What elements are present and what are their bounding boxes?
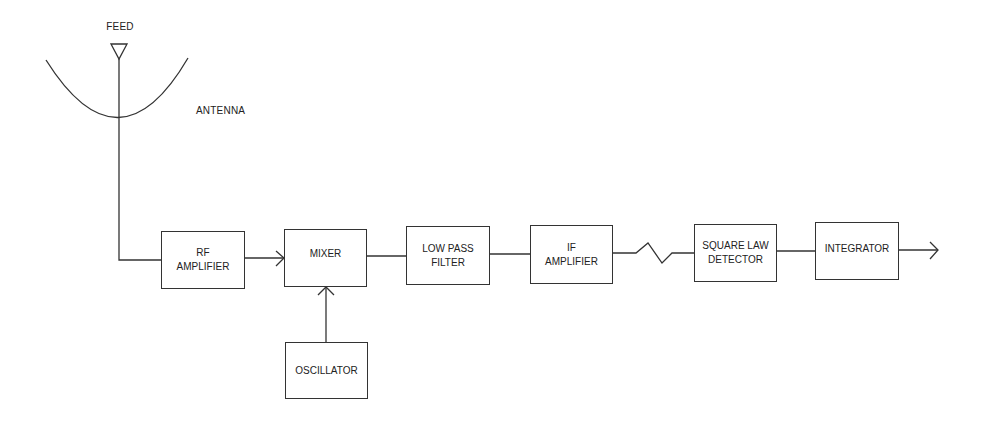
antenna-label: ANTENNA — [196, 104, 256, 118]
block-label: LOW PASS — [422, 242, 474, 256]
block-label: RF — [196, 246, 209, 260]
block-label: OSCILLATOR — [295, 364, 357, 378]
mixer-block: MIXER — [284, 229, 367, 287]
low-pass-filter-block: LOW PASS FILTER — [406, 226, 490, 285]
block-label: AMPLIFIER — [545, 255, 598, 269]
square-law-detector-block: SQUARE LAW DETECTOR — [694, 224, 777, 282]
attenuator-zigzag-icon — [612, 243, 694, 263]
antenna-dish-icon — [46, 58, 188, 118]
block-label: AMPLIFIER — [177, 260, 230, 274]
rf-amplifier-block: RF AMPLIFIER — [161, 231, 245, 289]
block-label: SQUARE LAW — [702, 239, 768, 253]
block-label: FILTER — [431, 256, 465, 270]
diagram-wires — [0, 0, 982, 430]
if-amplifier-block: IF AMPLIFIER — [530, 225, 613, 284]
feed-label: FEED — [104, 20, 136, 34]
integrator-block: INTEGRATOR — [815, 222, 899, 280]
block-label: MIXER — [310, 247, 342, 261]
oscillator-block: OSCILLATOR — [285, 342, 368, 399]
block-label: IF — [567, 241, 576, 255]
block-label: INTEGRATOR — [825, 242, 890, 256]
feed-icon — [111, 44, 127, 59]
block-label: DETECTOR — [708, 253, 763, 267]
